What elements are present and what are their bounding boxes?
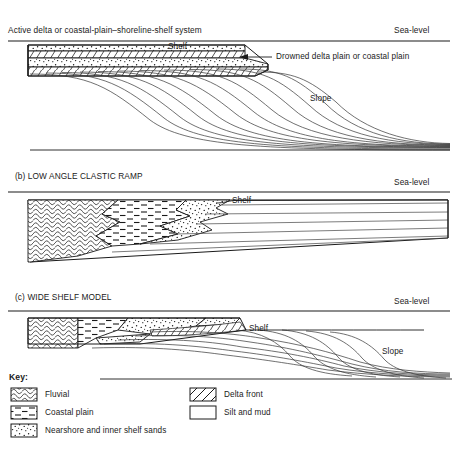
panel-c-title: (c) WIDE SHELF MODEL [15,293,112,301]
panel-a-sea-level-label: Sea-level [394,26,430,34]
key-swatch-nearshore-sands [11,424,37,437]
key-swatch-fluvial [11,388,37,401]
panel-a-shelf-label: Shelf [168,43,187,51]
key-label-coastal-plain: Coastal plain [45,409,94,417]
key-swatch-delta-front [190,388,216,401]
panel-b-geometry [8,192,450,262]
panel-b-sea-level-label: Sea-level [394,178,430,186]
panel-a-slope-label: Slope [310,95,331,103]
key-swatch-coastal-plain [11,406,37,419]
key-label-nearshore-sands: Nearshore and inner shelf sands [45,427,166,435]
key-swatch-silt-and-mud [190,406,216,419]
figure-root: Active delta or coastal-plain–shoreline-… [0,0,458,452]
panel-b-title: (b) LOW ANGLE CLASTIC RAMP [15,172,143,180]
panel-c-slope-label: Slope [382,348,403,356]
key-title: Key: [9,373,28,382]
panel-c-sea-level-label: Sea-level [394,297,430,305]
panel-c-geometry [8,311,452,379]
panel-b-shelf-label: Shelf [232,197,251,205]
panel-a-drowned-delta-plain-annotation: Drowned delta plain or coastal plain [276,53,409,61]
key-label-fluvial: Fluvial [45,391,69,399]
key-label-delta-front: Delta front [224,391,263,399]
diagram-canvas [0,0,458,452]
panel-a-title: Active delta or coastal-plain–shoreline-… [8,26,202,34]
key-label-silt-and-mud: Silt and mud [224,409,271,417]
panel-c-shelf-label: Shelf [249,325,268,333]
